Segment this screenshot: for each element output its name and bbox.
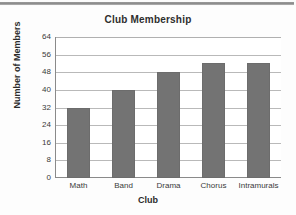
- y-tick-label: 64: [27, 33, 51, 41]
- y-tick-label: 32: [27, 104, 51, 112]
- bar-series: [56, 37, 281, 178]
- bar[interactable]: [112, 90, 135, 178]
- y-tick-label: 16: [27, 139, 51, 147]
- bar-chart-figure: Club Membership Number of Members 081624…: [0, 6, 296, 215]
- bar[interactable]: [67, 108, 90, 179]
- y-tick-label: 56: [27, 51, 51, 59]
- bar[interactable]: [247, 63, 270, 178]
- x-tick-label: Chorus: [191, 181, 236, 190]
- top-divider-rule: [0, 2, 294, 5]
- bar-slot: [236, 37, 281, 178]
- bar-slot: [191, 37, 236, 178]
- y-tick-label: 48: [27, 68, 51, 76]
- y-tick-label: 0: [27, 174, 51, 182]
- bar-slot: [146, 37, 191, 178]
- bar-slot: [101, 37, 146, 178]
- x-tick-label: Drama: [146, 181, 191, 190]
- chart-title: Club Membership: [0, 14, 296, 25]
- y-tick-label: 24: [27, 121, 51, 129]
- x-axis-title: Club: [0, 195, 296, 205]
- x-tick-label: Math: [56, 181, 101, 190]
- y-axis-tick-labels: 0816243240485664: [27, 37, 51, 178]
- y-tick-label: 40: [27, 86, 51, 94]
- y-axis-title: Number of Members: [12, 5, 22, 125]
- x-tick-label: Intramurals: [236, 181, 281, 190]
- bar[interactable]: [157, 72, 180, 178]
- bar[interactable]: [202, 63, 225, 178]
- bar-slot: [56, 37, 101, 178]
- y-tick-label: 8: [27, 156, 51, 164]
- x-tick-label: Band: [101, 181, 146, 190]
- x-axis-tick-labels: MathBandDramaChorusIntramurals: [56, 181, 281, 190]
